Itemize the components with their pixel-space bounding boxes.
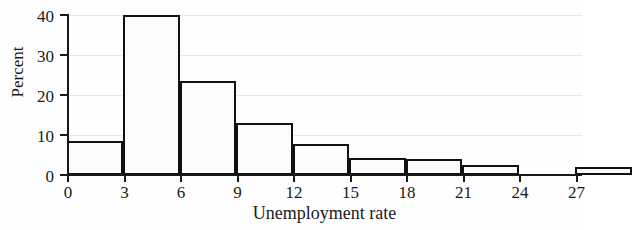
- y-axis-title: Percent: [8, 26, 28, 118]
- y-tick-20: [60, 94, 67, 96]
- y-tick-label-30: 30: [28, 48, 54, 65]
- x-tick-label-15: 15: [336, 184, 366, 201]
- x-tick-0: [67, 174, 69, 182]
- x-tick-label-0: 0: [53, 184, 83, 201]
- x-tick-3: [124, 174, 126, 182]
- bar-bin-3-6: [123, 15, 179, 175]
- y-tick-10: [60, 134, 67, 136]
- x-tick-label-21: 21: [449, 184, 479, 201]
- y-tick-40: [60, 14, 67, 16]
- x-axis-line: [67, 174, 582, 176]
- x-tick-label-12: 12: [279, 184, 309, 201]
- x-tick-6: [180, 174, 182, 182]
- x-tick-27: [576, 174, 578, 182]
- x-tick-21: [463, 174, 465, 182]
- bar-bin-27-30: [575, 167, 631, 175]
- x-axis-title: Unemployment rate: [67, 203, 582, 224]
- x-tick-label-3: 3: [110, 184, 140, 201]
- x-tick-label-24: 24: [505, 184, 535, 201]
- x-tick-label-27: 27: [562, 184, 592, 201]
- bar-bin-15-18: [349, 158, 405, 175]
- bar-bin-18-21: [406, 159, 462, 175]
- x-tick-24: [519, 174, 521, 182]
- y-tick-label-40: 40: [28, 8, 54, 25]
- y-tick-label-10: 10: [28, 128, 54, 145]
- x-tick-label-6: 6: [166, 184, 196, 201]
- bar-bin-12-15: [293, 144, 349, 175]
- bar-bin-6-9: [180, 81, 236, 175]
- x-tick-18: [406, 174, 408, 182]
- x-tick-15: [350, 174, 352, 182]
- x-tick-label-18: 18: [392, 184, 422, 201]
- y-tick-label-0: 0: [28, 168, 54, 185]
- bar-bin-9-12: [236, 123, 292, 175]
- x-tick-label-9: 9: [223, 184, 253, 201]
- x-tick-12: [293, 174, 295, 182]
- y-tick-0: [60, 174, 67, 176]
- x-tick-9: [237, 174, 239, 182]
- bar-bin-0-3: [67, 141, 123, 175]
- y-axis-line: [67, 14, 69, 176]
- y-tick-30: [60, 54, 67, 56]
- y-tick-label-20: 20: [28, 88, 54, 105]
